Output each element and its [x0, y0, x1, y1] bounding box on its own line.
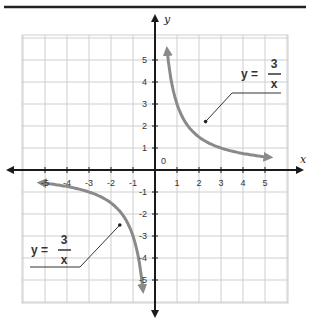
x-tick-label: 3 [218, 178, 223, 188]
x-tick-label: -5 [41, 178, 49, 188]
y-tick-label: -2 [139, 209, 147, 219]
svg-text:y =: y = [241, 67, 258, 81]
x-axis-label: x [300, 153, 307, 166]
y-tick-label: 5 [142, 55, 147, 65]
y-tick-label: 4 [142, 77, 147, 87]
svg-text:x: x [271, 77, 278, 91]
y-tick-label: -5 [139, 275, 147, 285]
svg-text:y =: y = [31, 243, 48, 257]
x-tick-label: 1 [174, 178, 179, 188]
y-tick-label: 3 [142, 99, 147, 109]
y-tick-label: -4 [139, 253, 147, 263]
svg-text:x: x [61, 253, 68, 267]
x-tick-label: -3 [85, 178, 93, 188]
x-tick-label: -1 [129, 178, 137, 188]
equation-label-upper: y =3x [241, 57, 281, 91]
x-tick-label: -4 [63, 178, 71, 188]
x-tick-label: 2 [196, 178, 201, 188]
x-tick-label: 4 [240, 178, 245, 188]
y-tick-label: -1 [139, 187, 147, 197]
y-tick-label: -3 [139, 231, 147, 241]
equation-label-lower: y =3x [31, 233, 71, 267]
svg-text:3: 3 [271, 57, 278, 71]
axes: xy [8, 13, 307, 316]
x-tick-label: 5 [262, 178, 267, 188]
x-tick-label: -2 [107, 178, 115, 188]
svg-text:3: 3 [61, 233, 68, 247]
y-axis-label: y [163, 13, 171, 26]
y-tick-label: 1 [142, 143, 147, 153]
origin-label: 0 [161, 156, 166, 166]
y-tick-label: 2 [142, 121, 147, 131]
hyperbola-chart: xy -5-4-3-2-112345-5-4-3-2-1123450 y =3x… [0, 0, 309, 318]
